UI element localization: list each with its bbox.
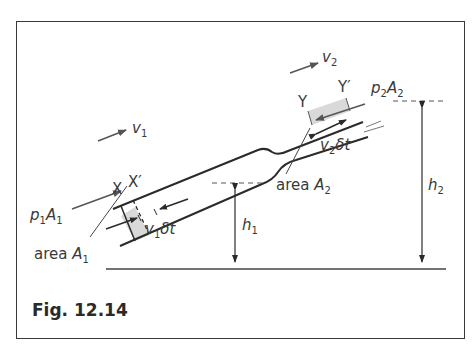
p2A2-label: p2A2: [371, 81, 404, 96]
h1-label: h1: [242, 218, 258, 233]
v1-arrow: [98, 130, 126, 141]
v2dt-dimension: [316, 120, 346, 134]
v1-label: v1: [132, 121, 147, 136]
Y-label: Y: [298, 95, 307, 110]
v1dt-label: v1δt: [145, 222, 175, 237]
Xprime-label: X′: [128, 175, 142, 190]
Yprime-label: Y′: [338, 80, 351, 95]
v2-arrow: [290, 63, 318, 73]
v2-label: v2: [322, 50, 337, 65]
figure-caption: Fig. 12.14: [32, 300, 128, 320]
pipe-diagram: [0, 0, 475, 349]
h2-label: h2: [428, 178, 444, 193]
pipe-inner-extension: [364, 121, 384, 132]
X-label: X: [112, 182, 122, 197]
p1A1-label: p1A1: [30, 208, 63, 223]
v2dt-label: v2δt: [320, 138, 350, 153]
areaA1-label: area A1: [34, 247, 89, 262]
areaA2-label: area A2: [276, 178, 331, 193]
